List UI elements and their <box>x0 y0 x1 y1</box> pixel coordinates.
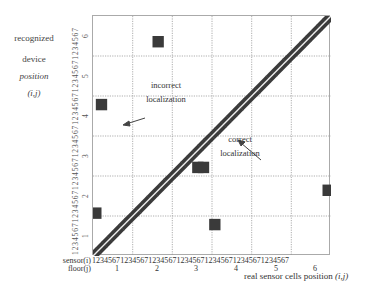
x-floor-tick-4: 4 <box>234 264 238 273</box>
plot-area: incorrect localization correct localizat… <box>92 15 330 255</box>
y-axis-label-line3: position <box>0 71 68 81</box>
x-floor-tick-1: 1 <box>115 264 119 273</box>
x-sensor-ticks-row: sensor(i) 123456712345671234567123456712… <box>92 256 289 265</box>
y-axis-ticks: 1234567123456712345671234567123456712345… <box>70 15 90 255</box>
x-floor-tick-2: 2 <box>155 264 159 273</box>
x-axis-title: real sensor cells position (i,j) <box>244 271 348 281</box>
y-axis-label-line2: device <box>0 54 68 64</box>
annotation-correct: correct localization <box>205 132 275 160</box>
y-axis-label-line1: recognized <box>0 33 68 43</box>
x-sensor-ticks: 1234567123456712345671234567123456712345… <box>92 256 289 265</box>
annotation-incorrect: incorrect localization <box>131 78 201 106</box>
y-sensor-ticks: 1234567123456712345671234567123456712345… <box>71 15 80 255</box>
heatmap-cell <box>153 36 164 47</box>
heatmap-cell <box>198 162 209 173</box>
y-axis-label-line4: (i,j) <box>0 88 68 98</box>
x-floor-tick-3: 3 <box>194 264 198 273</box>
heatmap-cell <box>323 185 332 196</box>
floor-axis-label: floor(j) <box>68 264 92 273</box>
heatmap-cell <box>93 207 102 218</box>
heatmap-cell <box>209 219 220 230</box>
heatmap-cell <box>96 99 107 110</box>
